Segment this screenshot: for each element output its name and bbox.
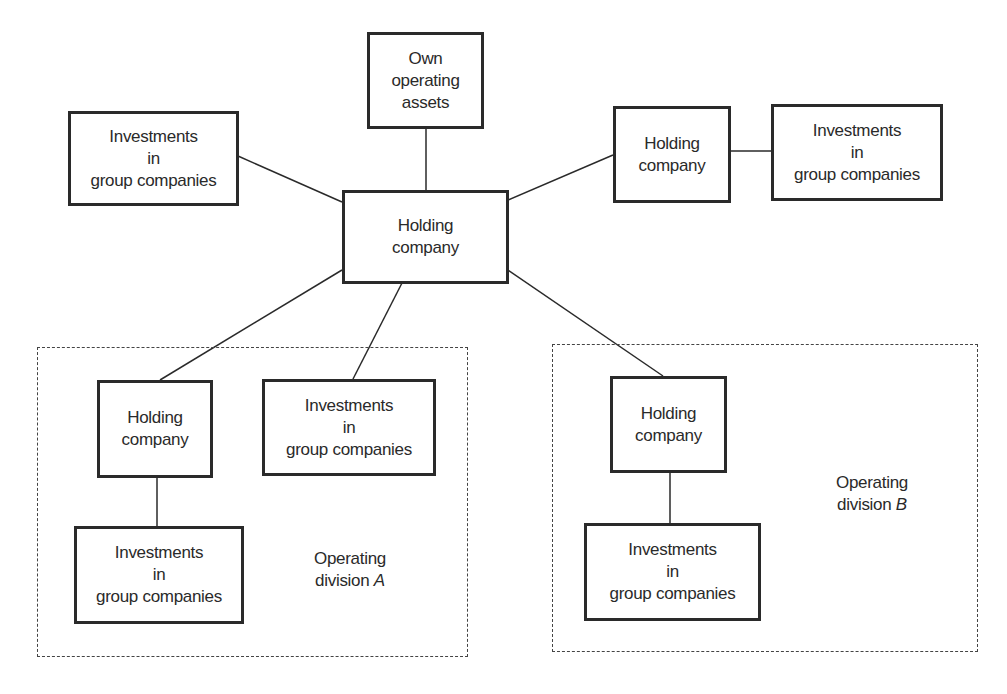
division-b-investments-box: Investments in group companies: [584, 523, 761, 621]
box-text: Investments: [813, 120, 901, 142]
box-text: company: [392, 237, 459, 259]
box-text: Investments: [109, 126, 197, 148]
box-text: assets: [402, 92, 449, 114]
division-a-investments-top-box: Investments in group companies: [262, 379, 436, 476]
box-text: group companies: [610, 583, 736, 605]
box-text: group companies: [286, 439, 412, 461]
box-text: Own: [408, 48, 442, 70]
right-holding-company-box: Holding company: [613, 106, 731, 203]
division-label-prefix: division: [837, 495, 896, 514]
box-text: Holding: [398, 215, 454, 237]
operating-division-a-label: Operating division A: [290, 548, 410, 592]
central-holding-company-box: Holding company: [342, 190, 509, 284]
division-letter: B: [896, 495, 907, 514]
division-a-holding-company-box: Holding company: [97, 380, 213, 478]
box-text: group companies: [96, 586, 222, 608]
box-text: in: [851, 142, 864, 164]
box-text: Investments: [115, 542, 203, 564]
division-letter: A: [374, 571, 385, 590]
division-label-line1: Operating: [812, 472, 932, 494]
box-text: in: [147, 148, 160, 170]
box-text: group companies: [794, 164, 920, 186]
box-text: Holding: [127, 407, 183, 429]
box-text: company: [635, 425, 702, 447]
division-b-holding-company-box: Holding company: [610, 376, 727, 473]
box-text: group companies: [91, 170, 217, 192]
box-text: Investments: [305, 395, 393, 417]
box-text: company: [639, 155, 706, 177]
division-label-prefix: division: [315, 571, 374, 590]
division-label-line1: Operating: [290, 548, 410, 570]
box-text: in: [666, 561, 679, 583]
box-text: Investments: [628, 539, 716, 561]
box-text: operating: [391, 70, 459, 92]
right-investments-box: Investments in group companies: [771, 104, 943, 201]
box-text: company: [122, 429, 189, 451]
division-a-investments-bottom-box: Investments in group companies: [74, 526, 244, 624]
division-label-line2: division A: [290, 570, 410, 592]
box-text: in: [343, 417, 356, 439]
left-investments-box: Investments in group companies: [68, 111, 239, 206]
operating-division-b-label: Operating division B: [812, 472, 932, 516]
own-operating-assets-box: Own operating assets: [367, 32, 484, 129]
division-label-line2: division B: [812, 494, 932, 516]
box-text: Holding: [641, 403, 697, 425]
box-text: in: [153, 564, 166, 586]
box-text: Holding: [644, 133, 700, 155]
